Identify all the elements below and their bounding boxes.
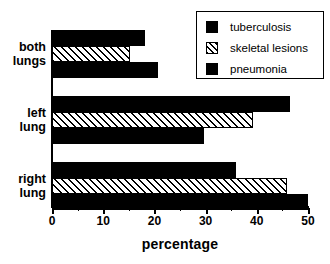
bar-tuberculosis-both-lungs [52, 30, 145, 46]
bar-chart: 01020304050 percentage bothlungsleftlung… [0, 0, 330, 264]
category-label-line: right [0, 172, 46, 186]
bar-pneumonia-right-lung [52, 194, 308, 210]
bar-tuberculosis-left-lung [52, 96, 290, 112]
legend-label: tuberculosis [230, 20, 291, 34]
legend-swatch-tuberculosis [206, 21, 218, 33]
bar-tuberculosis-right-lung [52, 162, 236, 178]
category-label-line: both [0, 40, 46, 54]
category-label-line: left [0, 106, 46, 120]
category-label-line: lungs [0, 54, 46, 68]
legend: tuberculosisskeletal lesionspneumonia [196, 11, 324, 79]
legend-label: pneumonia [230, 62, 287, 76]
x-tick-label: 20 [139, 214, 169, 228]
x-tick-label: 0 [37, 214, 67, 228]
bar-pneumonia-left-lung [52, 128, 204, 144]
category-label-line: lung [0, 186, 46, 200]
bar-skeletal-lesions-right-lung [52, 178, 287, 194]
legend-label: skeletal lesions [230, 41, 308, 55]
category-label-right-lung: rightlung [0, 172, 46, 200]
x-tick-label: 10 [88, 214, 118, 228]
x-tick-label: 30 [191, 214, 221, 228]
x-axis-title: percentage [52, 236, 308, 252]
category-label-both-lungs: bothlungs [0, 40, 46, 68]
bar-skeletal-lesions-left-lung [52, 112, 253, 128]
x-tick-label: 40 [242, 214, 272, 228]
bar-skeletal-lesions-both-lungs [52, 46, 130, 62]
category-label-line: lung [0, 120, 46, 134]
category-label-left-lung: leftlung [0, 106, 46, 134]
x-tick-label: 50 [293, 214, 323, 228]
legend-swatch-skeletal-lesions [206, 42, 218, 54]
bar-pneumonia-both-lungs [52, 62, 158, 78]
legend-swatch-pneumonia [206, 63, 218, 75]
